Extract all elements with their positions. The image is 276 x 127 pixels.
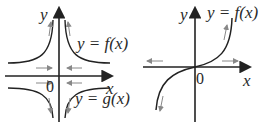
curve-f bbox=[156, 18, 232, 110]
curve-g-label: y = g(x) bbox=[73, 89, 130, 108]
left-graph: y x 0 y = f(x) y = g(x) bbox=[5, 5, 130, 122]
curve-top-left bbox=[8, 20, 53, 63]
curve-f-label: y = f(x) bbox=[75, 34, 128, 53]
x-axis-label: x bbox=[242, 71, 251, 90]
diagram: y x 0 y = f(x) y = g(x) y x 0 y = f(x) bbox=[0, 0, 276, 127]
origin-label: 0 bbox=[196, 70, 204, 87]
origin-label: 0 bbox=[46, 78, 54, 95]
y-axis-label: y bbox=[178, 5, 188, 24]
y-axis-label: y bbox=[38, 5, 48, 24]
right-graph: y x 0 y = f(x) bbox=[143, 3, 258, 122]
curve-f-label: y = f(x) bbox=[205, 3, 258, 22]
